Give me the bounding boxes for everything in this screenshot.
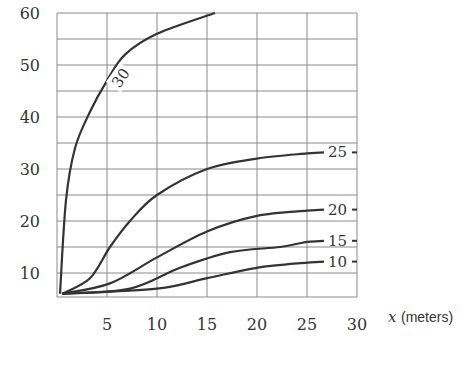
x-tick-label: 30 — [347, 315, 367, 334]
contour-chart: 10203040506051015202530x(meters)30252015… — [0, 0, 463, 371]
x-tick-label: 15 — [197, 315, 217, 334]
grid — [57, 13, 357, 297]
y-tick-label: 40 — [20, 108, 40, 127]
x-tick-label: 25 — [297, 315, 317, 334]
x-axis-unit: (meters) — [401, 309, 453, 325]
y-tick-label: 50 — [20, 56, 40, 75]
curve-label-25: 25 — [328, 143, 347, 161]
x-tick-label: 5 — [102, 315, 112, 334]
x-axis-variable: x — [388, 308, 397, 326]
curve-20 — [62, 211, 307, 294]
y-tick-label: 60 — [20, 4, 40, 23]
x-tick-label: 20 — [247, 315, 267, 334]
curve-label-20: 20 — [328, 201, 347, 219]
curves — [60, 13, 324, 294]
y-tick-label: 20 — [20, 212, 40, 231]
y-tick-label: 30 — [20, 160, 40, 179]
curve-label-30: 30 — [108, 65, 134, 91]
curve-30 — [60, 13, 215, 294]
curve-label-10: 10 — [328, 253, 347, 271]
curve-label-15: 15 — [328, 232, 347, 250]
x-tick-label: 10 — [147, 315, 167, 334]
y-tick-label: 10 — [20, 264, 40, 283]
